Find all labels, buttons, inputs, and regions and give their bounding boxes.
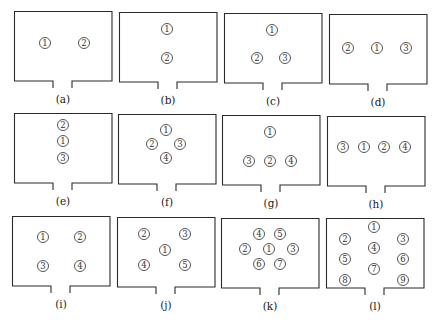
- panel-caption: (e): [14, 195, 112, 207]
- panel-caption: (b): [119, 94, 217, 106]
- room-outline: 213: [14, 113, 112, 191]
- position-marker-4: 4: [399, 141, 411, 153]
- position-marker-7: 7: [274, 258, 286, 270]
- panel-caption: (j): [117, 299, 215, 311]
- panel-caption: (i): [12, 298, 110, 310]
- position-marker-2: 2: [78, 37, 90, 49]
- position-marker-7: 7: [368, 263, 380, 275]
- room-wall-icon: [221, 218, 321, 297]
- panel-caption: (k): [221, 300, 319, 312]
- panel-l: 123456789(l): [326, 218, 424, 310]
- panel-f: 1234(f): [118, 114, 216, 206]
- position-marker-1: 1: [161, 23, 173, 35]
- room-wall-icon: [327, 116, 427, 195]
- position-marker-3: 3: [179, 228, 191, 240]
- position-marker-4: 4: [285, 155, 297, 167]
- position-marker-2: 2: [146, 138, 158, 150]
- panel-a: 12(a): [14, 11, 112, 103]
- position-marker-6: 6: [253, 258, 265, 270]
- position-marker-1: 1: [160, 124, 172, 136]
- position-marker-2: 2: [251, 52, 263, 64]
- panel-g: 1324(g): [222, 115, 320, 207]
- position-marker-1: 1: [368, 221, 380, 233]
- position-marker-3: 3: [337, 141, 349, 153]
- position-marker-2: 2: [57, 119, 69, 131]
- room-outline: 12: [119, 12, 217, 90]
- position-marker-5: 5: [179, 259, 191, 271]
- position-marker-1: 1: [264, 126, 276, 138]
- position-marker-4: 4: [160, 152, 172, 164]
- position-marker-3: 3: [400, 42, 412, 54]
- panel-caption: (a): [14, 93, 112, 105]
- panel-c: 123(c): [224, 13, 322, 105]
- position-marker-3: 3: [287, 243, 299, 255]
- position-marker-9: 9: [397, 274, 409, 286]
- position-marker-1: 1: [358, 141, 370, 153]
- room-outline: 213: [329, 14, 427, 92]
- position-marker-3: 3: [174, 138, 186, 150]
- position-marker-8: 8: [339, 274, 351, 286]
- position-marker-2: 2: [161, 52, 173, 64]
- panel-caption: (h): [327, 198, 425, 210]
- panel-h: 3124(h): [327, 116, 425, 208]
- position-marker-4: 4: [74, 260, 86, 272]
- room-outline: 1234: [118, 114, 216, 192]
- position-marker-4: 4: [368, 242, 380, 254]
- room-outline: 12: [14, 11, 112, 89]
- position-marker-3: 3: [243, 155, 255, 167]
- position-marker-2: 2: [74, 231, 86, 243]
- panel-d: 213(d): [329, 14, 427, 106]
- panel-b: 12(b): [119, 12, 217, 104]
- position-marker-2: 2: [378, 141, 390, 153]
- position-marker-2: 2: [342, 42, 354, 54]
- position-marker-4: 4: [138, 259, 150, 271]
- position-marker-1: 1: [57, 135, 69, 147]
- panel-caption: (g): [222, 197, 320, 209]
- position-marker-1: 1: [37, 231, 49, 243]
- position-marker-3: 3: [279, 52, 291, 64]
- room-wall-icon: [12, 216, 112, 295]
- position-marker-1: 1: [371, 42, 383, 54]
- position-marker-6: 6: [397, 253, 409, 265]
- position-marker-5: 5: [274, 228, 286, 240]
- room-outline: 1234: [12, 216, 110, 294]
- room-wall-icon: [117, 217, 217, 296]
- position-marker-5: 5: [339, 253, 351, 265]
- panel-e: 213(e): [14, 113, 112, 205]
- panel-caption: (c): [224, 95, 322, 107]
- room-outline: 1324: [222, 115, 320, 193]
- panel-k: 4521367(k): [221, 218, 319, 310]
- room-wall-icon: [14, 11, 114, 90]
- panel-caption: (d): [329, 96, 427, 108]
- position-marker-2: 2: [138, 228, 150, 240]
- position-marker-3: 3: [397, 233, 409, 245]
- room-outline: 4521367: [221, 218, 319, 296]
- room-outline: 23145: [117, 217, 215, 295]
- position-marker-1: 1: [263, 243, 275, 255]
- panel-caption: (f): [118, 196, 216, 208]
- position-marker-3: 3: [57, 152, 69, 164]
- position-marker-4: 4: [253, 228, 265, 240]
- room-outline: 123456789: [326, 218, 424, 296]
- panel-j: 23145(j): [117, 217, 215, 309]
- position-marker-2: 2: [264, 155, 276, 167]
- panel-i: 1234(i): [12, 216, 110, 308]
- position-marker-1: 1: [159, 244, 171, 256]
- position-marker-3: 3: [37, 260, 49, 272]
- room-outline: 123: [224, 13, 322, 91]
- room-outline: 3124: [327, 116, 425, 194]
- panel-caption: (l): [326, 300, 424, 312]
- position-marker-1: 1: [266, 24, 278, 36]
- position-marker-1: 1: [39, 37, 51, 49]
- position-marker-2: 2: [339, 233, 351, 245]
- position-marker-2: 2: [239, 243, 251, 255]
